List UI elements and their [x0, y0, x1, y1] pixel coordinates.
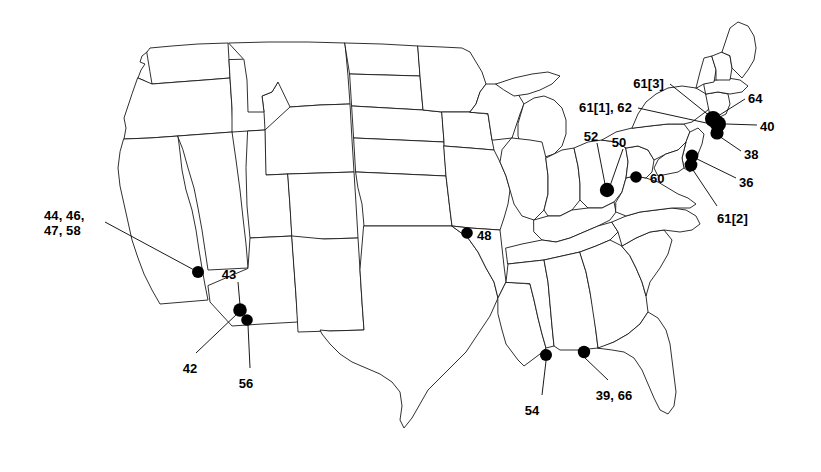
map-point-label: 56: [239, 376, 254, 391]
leader-line: [726, 124, 757, 125]
leader-line: [693, 170, 717, 206]
map-point-label: 64: [748, 91, 763, 106]
leader-line: [196, 313, 238, 353]
state-iowa: [442, 112, 494, 150]
map-point-label: 52: [584, 129, 599, 144]
leader-line: [695, 158, 736, 178]
map-point-label: 48: [477, 228, 492, 243]
state-oregon: [124, 78, 233, 139]
map-point-label: 39, 66: [596, 388, 633, 403]
map-point-label: 50: [612, 135, 627, 150]
state-southdakota: [350, 74, 423, 110]
site-marker-dot[interactable]: [600, 183, 614, 197]
state-newmexico: [292, 236, 364, 332]
state-nebraska: [352, 106, 444, 142]
map-point-label: 44, 46, 47, 58: [44, 208, 84, 239]
site-marker-dot[interactable]: [192, 266, 204, 278]
site-marker-dot[interactable]: [461, 227, 473, 239]
map-point-label: 36: [739, 175, 754, 190]
map-point-label: 38: [744, 147, 759, 162]
state-northdakota: [345, 43, 420, 76]
state-missouri: [444, 146, 510, 230]
map-point-label: 43: [222, 267, 237, 282]
map-point-label: 61[1], 62: [579, 100, 632, 115]
state-minnesota: [418, 46, 486, 112]
state-oklahoma: [356, 172, 452, 226]
map-point-label: 54: [525, 403, 540, 418]
site-marker-dot[interactable]: [710, 126, 723, 139]
site-marker-dot[interactable]: [241, 314, 253, 326]
map-point-label: 42: [183, 361, 198, 376]
leader-line: [719, 136, 741, 151]
site-marker-dot[interactable]: [578, 346, 590, 358]
map-point-label: 61[3]: [633, 76, 664, 91]
state-colorado: [288, 172, 358, 240]
leader-line: [585, 358, 608, 380]
state-washington: [138, 43, 230, 84]
state-wyoming: [265, 104, 354, 175]
state-indiana: [544, 148, 580, 216]
map-point-label: 40: [760, 119, 775, 134]
map-point-label: 61[2]: [717, 211, 748, 226]
map-point-label: 60: [650, 171, 665, 186]
us-map-svg: [0, 0, 821, 472]
site-marker-dot[interactable]: [540, 349, 552, 361]
site-marker-dot[interactable]: [630, 171, 642, 183]
site-marker-dot[interactable]: [685, 159, 698, 172]
leader-line: [542, 361, 546, 395]
leader-line: [248, 325, 250, 368]
state-kansas: [354, 138, 446, 176]
us-map-figure: 44, 46, 47, 58434256485439, 6652506061[1…: [0, 0, 821, 472]
